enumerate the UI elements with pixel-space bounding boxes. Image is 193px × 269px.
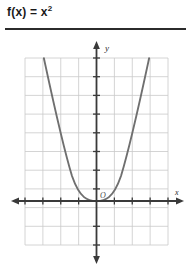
y-axis-label: y [104, 43, 109, 53]
x-axis-right-arrow-icon [176, 198, 184, 205]
y-axis-down-arrow-icon [93, 256, 100, 264]
page-title-exponent: 2 [48, 4, 53, 13]
page-title-text: f(x) = x [7, 5, 48, 19]
x-axis-label: x [174, 188, 179, 197]
origin-label: O [100, 191, 106, 200]
page-root: f(x) = x2 [0, 0, 193, 269]
title-divider [5, 28, 186, 30]
page-title: f(x) = x2 [7, 5, 52, 19]
y-axis-up-arrow-icon [93, 41, 100, 49]
x-axis-left-arrow-icon [11, 198, 19, 205]
graph-svg: y x O [0, 33, 193, 269]
graph-figure: y x O [0, 33, 193, 269]
